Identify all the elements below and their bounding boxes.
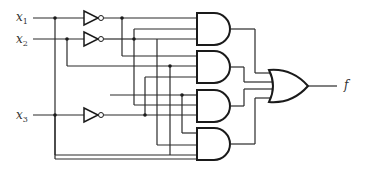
inverter-x2 (84, 32, 104, 46)
circuit-svg (0, 0, 369, 171)
inverter-x3 (84, 108, 104, 122)
and-gate-4 (197, 128, 230, 160)
inverter-x1 (84, 11, 104, 25)
or-gate (269, 70, 308, 102)
logic-circuit-diagram: x1 x2 x3 f (0, 0, 369, 171)
and-gate-2 (197, 51, 230, 83)
and-gate-3 (197, 90, 230, 122)
and-gate-1 (197, 13, 230, 45)
